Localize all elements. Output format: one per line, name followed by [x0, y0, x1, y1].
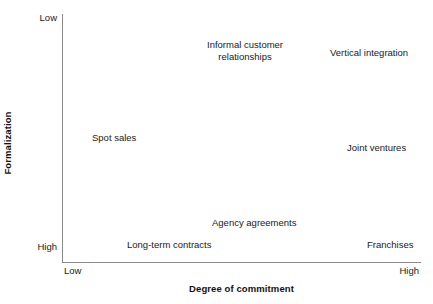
y-axis-title: Formalization: [0, 88, 14, 198]
data-point-label: Long-term contracts: [127, 239, 211, 251]
y-axis-low-tick-label: Low: [0, 12, 57, 23]
data-point-label: Joint ventures: [347, 142, 406, 154]
data-point-label: Informal customer relationships: [207, 39, 283, 63]
y-axis-line: [62, 14, 63, 263]
x-axis-high-tick-label: High: [321, 265, 419, 276]
x-axis-line: [62, 262, 421, 263]
y-axis-high-tick-label: High: [0, 241, 57, 252]
x-axis-title: Degree of commitment: [62, 283, 421, 294]
x-axis-low-tick-label: Low: [64, 265, 81, 276]
y-axis-title-text: Formalization: [2, 111, 13, 174]
data-point-label: Vertical integration: [330, 47, 408, 59]
data-point-label: Franchises: [367, 239, 413, 251]
data-point-label: Spot sales: [92, 132, 136, 144]
data-point-label: Agency agreements: [212, 217, 297, 229]
governance-mode-matrix-figure: Formalization Degree of commitment Low H…: [0, 0, 433, 304]
